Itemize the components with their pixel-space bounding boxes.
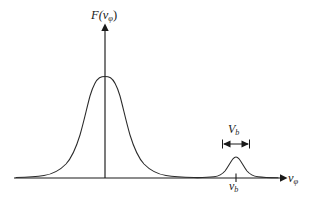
y-axis-label: F(vφ) (91, 9, 117, 23)
x-axis-label-subscript: φ (294, 176, 299, 186)
x-axis-label: vφ (288, 172, 298, 186)
y-axis-label-main: F(v (91, 8, 108, 22)
beam-center-label-subscript: b (234, 185, 238, 194)
beam-width-left-arrowhead (223, 141, 231, 148)
beam-width-label-subscript: b (235, 128, 239, 137)
distribution-plot (0, 0, 310, 208)
y-axis-label-close-paren: ) (113, 8, 117, 22)
beam-width-right-arrowhead (242, 141, 250, 148)
beam-width-label: Vb (228, 123, 239, 137)
y-axis-arrowhead (101, 24, 108, 32)
x-axis-arrowhead (280, 174, 288, 182)
figure-container: F(vφ) vφ Vb vb (0, 0, 310, 208)
beam-center-label: vb (229, 180, 238, 194)
